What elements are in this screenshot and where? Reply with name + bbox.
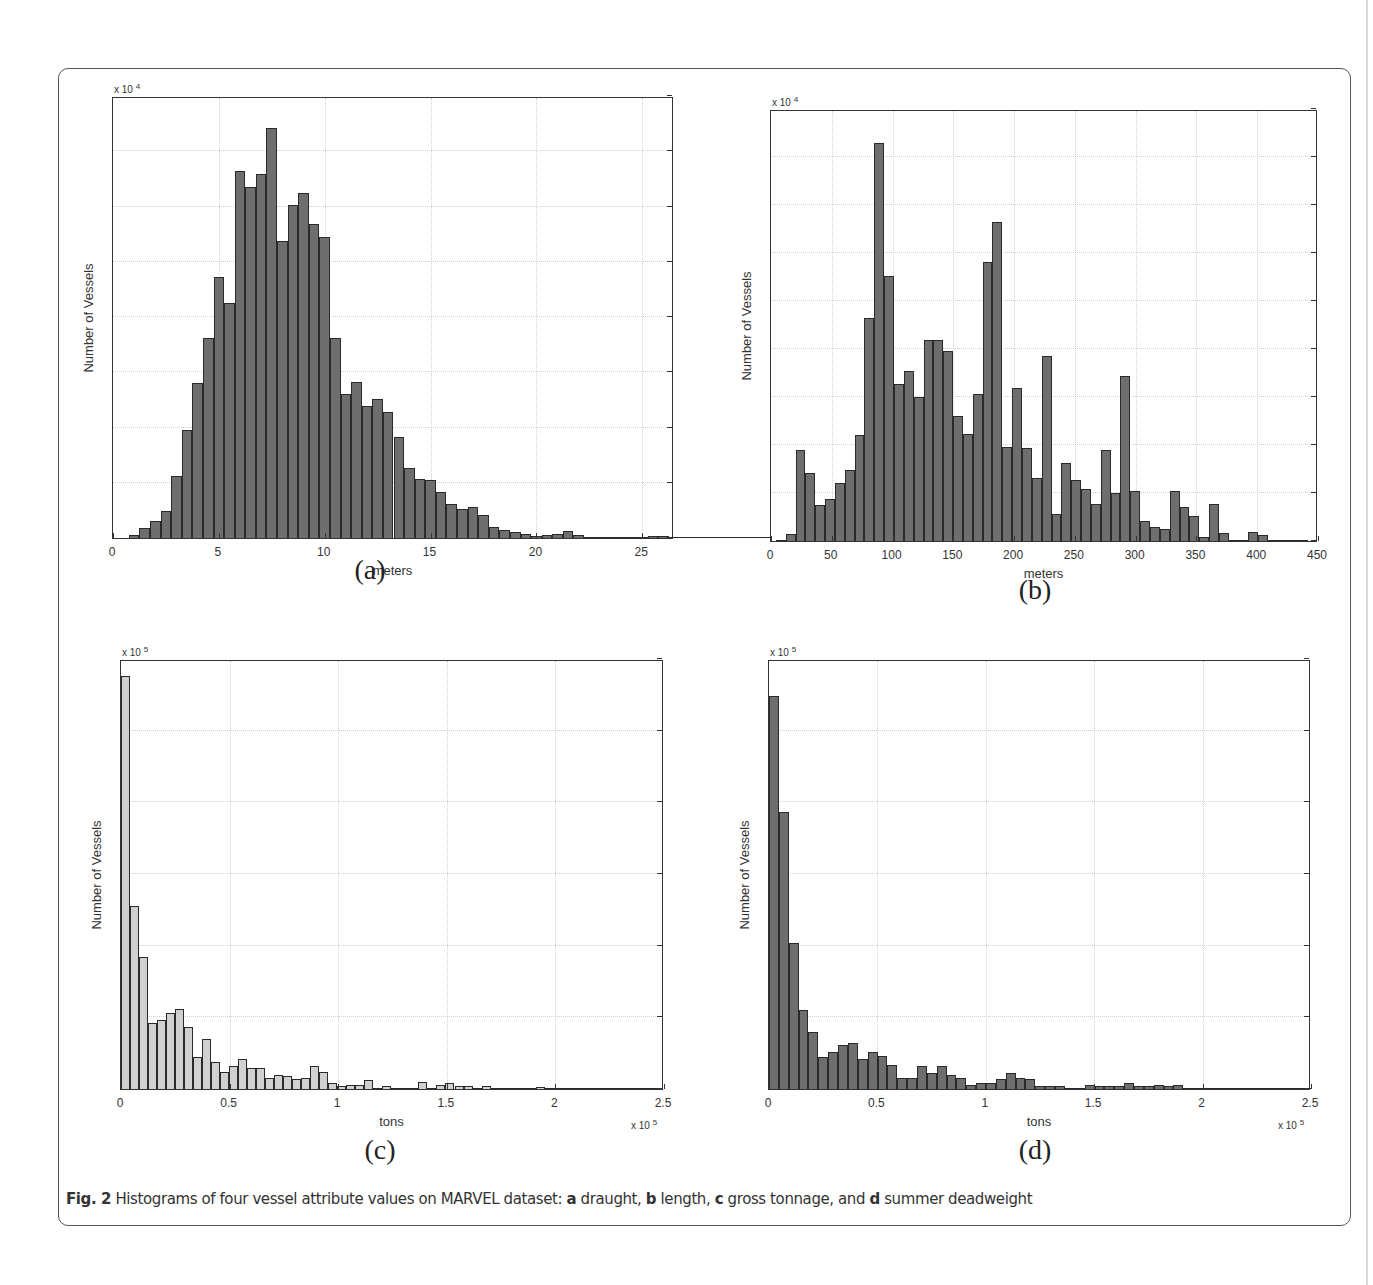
histogram-bar: [298, 193, 309, 538]
histogram-bar: [1025, 1079, 1035, 1089]
histogram-bar: [457, 509, 468, 538]
histogram-bar: [796, 450, 806, 541]
subfigure-label: (b): [1019, 574, 1052, 606]
histogram-bar: [400, 1088, 409, 1089]
histogram-bar: [835, 483, 845, 541]
histogram-bar: [319, 237, 330, 538]
histogram-bar: [786, 534, 796, 541]
gridline-vertical: [986, 661, 987, 1089]
gridline-horizontal: [769, 945, 1309, 946]
histogram-bar: [953, 416, 963, 541]
histogram-bar: [527, 1088, 536, 1089]
histogram-bar: [171, 476, 182, 538]
histogram-bar: [584, 537, 595, 538]
histogram-bar: [956, 1078, 966, 1089]
y-tick-mark: [1311, 348, 1316, 349]
histogram-bar: [202, 1039, 211, 1089]
histogram-bar: [976, 1083, 986, 1089]
x-tick-label: 0: [765, 1096, 772, 1110]
histogram-bar: [1292, 1088, 1302, 1089]
histogram-bar: [391, 1088, 400, 1089]
histogram-bar: [966, 1085, 976, 1089]
caption-part-d: summer deadweight: [880, 1190, 1032, 1208]
histogram-bar: [595, 537, 606, 538]
histogram-bar: [373, 1088, 382, 1089]
x-tick-mark: [769, 1084, 770, 1089]
gridline-vertical: [1075, 111, 1076, 541]
y-axis-label: Number of Vessels: [81, 263, 96, 372]
y-tick-mark: [1311, 204, 1316, 205]
histogram-bar: [789, 943, 799, 1089]
x-tick-label: 1.5: [1085, 1096, 1102, 1110]
histogram-bar: [799, 1010, 809, 1089]
histogram-bar: [700, 537, 711, 538]
histogram-bar: [192, 383, 203, 538]
histogram-bar: [648, 536, 659, 538]
histogram-bar: [1239, 540, 1249, 541]
y-tick-mark: [1311, 444, 1316, 445]
histogram-bar: [1002, 447, 1012, 541]
histogram-bar: [224, 303, 235, 538]
x-tick-label: 15: [423, 545, 436, 559]
histogram-bar: [193, 1057, 202, 1089]
x-tick-label: 0: [767, 548, 774, 562]
histogram-bar: [874, 143, 884, 541]
x-tick-label: 300: [1125, 548, 1145, 562]
x-tick-mark: [664, 1084, 665, 1089]
gridline-horizontal: [113, 316, 672, 317]
histogram-bar: [220, 1072, 229, 1089]
histogram-bar: [1268, 540, 1278, 541]
histogram-bar: [779, 812, 789, 1089]
histogram-bar: [355, 1085, 364, 1089]
y-tick-mark: [657, 945, 662, 946]
histogram-bar: [203, 338, 214, 538]
histogram-bar: [769, 696, 779, 1089]
histogram-bar: [372, 399, 383, 538]
gridline-horizontal: [771, 204, 1316, 205]
x-tick-mark: [877, 1084, 878, 1089]
caption-part-a: draught,: [576, 1190, 646, 1208]
y-axis-multiplier: x 10 5: [770, 645, 796, 658]
y-axis-multiplier: x 10 4: [114, 82, 140, 95]
histogram-bar: [1061, 463, 1071, 541]
x-tick-mark: [986, 1084, 987, 1089]
gridline-horizontal: [121, 801, 662, 802]
x-tick-mark: [230, 1084, 231, 1089]
gridline-horizontal: [769, 1016, 1309, 1017]
x-tick-mark: [642, 533, 643, 538]
histogram-bar: [214, 277, 225, 538]
histogram-bar: [518, 1088, 527, 1089]
y-tick-mark: [667, 261, 672, 262]
x-tick-label: 1: [981, 1096, 988, 1110]
x-tick-mark: [121, 1084, 122, 1089]
histogram-bar: [894, 384, 904, 541]
x-tick-mark: [893, 536, 894, 541]
histogram-bar: [150, 521, 161, 538]
histogram-bar: [455, 1086, 464, 1089]
page-edge-shadow: [1366, 0, 1368, 1285]
histogram-bar: [1154, 1085, 1164, 1089]
histogram-bar: [868, 1052, 878, 1089]
y-tick-mark: [657, 658, 662, 659]
histogram-bar: [1209, 504, 1219, 541]
histogram-bar: [963, 434, 973, 541]
y-axis-label: Number of Vessels: [737, 820, 752, 929]
histogram-bar: [1016, 1078, 1026, 1089]
y-tick-mark: [667, 206, 672, 207]
caption-text: Histograms of four vessel attribute valu…: [111, 1190, 566, 1208]
y-tick-mark: [1304, 801, 1309, 802]
y-tick-mark: [1311, 156, 1316, 157]
gridline-horizontal: [113, 371, 672, 372]
histogram-bar: [572, 1088, 581, 1089]
histogram-bar: [1052, 514, 1062, 541]
y-tick-mark: [1311, 108, 1316, 109]
histogram-bar: [1130, 491, 1140, 541]
histogram-bar: [394, 437, 405, 538]
histogram-bar: [1282, 1088, 1292, 1089]
histogram-bar: [1114, 1086, 1124, 1089]
histogram-bar: [828, 1052, 838, 1089]
histogram-bar: [563, 531, 574, 538]
x-tick-mark: [555, 1084, 556, 1089]
gridline-vertical: [1136, 111, 1137, 541]
x-tick-label: 5: [215, 545, 222, 559]
